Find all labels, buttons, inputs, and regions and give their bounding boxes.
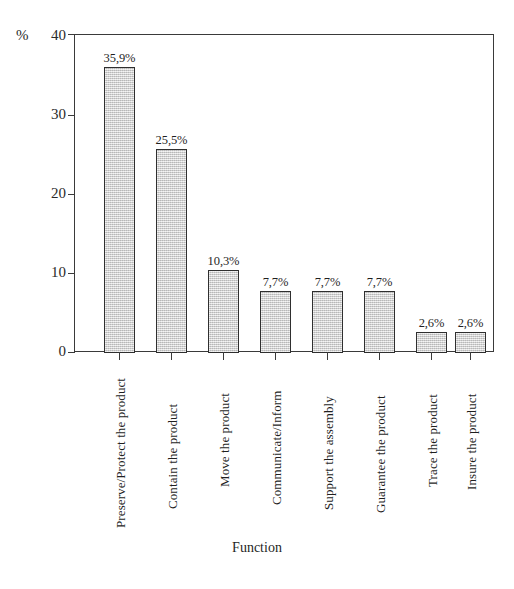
x-tick-mark-7 [470,352,471,360]
y-tick-label-10: 10 [32,264,66,281]
bar-communicate-inform [260,291,291,353]
bar-value-label-4: 7,7% [298,275,357,290]
x-tick-mark-0 [119,352,120,360]
bar-value-label-7: 2,6% [441,316,500,331]
x-tick-mark-6 [431,352,432,360]
bar-guarantee-the-product [364,291,395,353]
bar-contain-the-product [156,149,187,353]
x-tick-mark-2 [223,352,224,360]
x-category-label-2: Move the product [217,393,233,487]
x-tick-mark-4 [327,352,328,360]
y-axis-unit-label: % [16,27,29,44]
bar-insure-the-product [455,332,486,353]
y-tick-label-0: 0 [32,343,66,360]
y-tick-label-20: 20 [32,185,66,202]
bar-value-label-2: 10,3% [193,254,254,269]
bar-trace-the-product [416,332,447,353]
x-category-label-5: Guarantee the product [373,395,389,513]
x-tick-mark-3 [275,352,276,360]
bar-value-label-3: 7,7% [246,275,305,290]
bar-value-label-0: 35,9% [89,51,150,66]
x-tick-mark-1 [171,352,172,360]
x-tick-mark-5 [379,352,380,360]
x-category-label-6: Trace the product [425,394,441,487]
x-category-label-3: Communicate/Inform [269,391,285,505]
x-category-label-0: Preserve/Protect the product [113,378,129,528]
x-axis-title: Function [0,540,514,556]
x-category-label-1: Contain the product [165,404,181,509]
bar-chart-figure: % 40 30 20 10 0 35,9% 25,5% 10,3% 7,7% 7… [0,0,514,589]
y-tick-label-40: 40 [32,27,66,44]
y-tick-mark-0 [68,352,75,353]
bar-value-label-5: 7,7% [350,275,409,290]
bar-preserve-protect-the-product [104,67,135,353]
x-category-label-7: Insure the product [464,394,480,490]
y-tick-label-30: 30 [32,106,66,123]
bar-value-label-1: 25,5% [141,133,202,148]
bar-support-the-assembly [312,291,343,353]
bar-move-the-product [208,270,239,353]
x-category-label-4: Support the assembly [321,396,337,510]
